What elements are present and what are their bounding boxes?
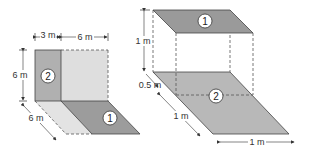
right-region-2-number: 2 — [213, 91, 219, 102]
left-height-label: 6 m — [12, 70, 27, 80]
right-region-1-number: 1 — [202, 16, 208, 27]
right-figure: 1 2 1 m 0.5 m 1 m 1 m — [134, 10, 294, 147]
right-width-label: 1 m — [249, 137, 264, 147]
left-top-width-3m: 3 m — [40, 30, 55, 40]
left-top-width-6m: 6 m — [77, 32, 92, 42]
right-height-label: 1 m — [135, 36, 150, 46]
right-region-2 — [153, 72, 289, 134]
left-figure: 2 1 3 m 6 m 6 m 6 m — [10, 30, 140, 140]
left-region-1-number: 1 — [107, 113, 113, 124]
diagram-canvas: 2 1 3 m 6 m 6 m 6 m — [0, 0, 312, 156]
left-light-rect — [61, 50, 108, 101]
left-depth-label: 6 m — [28, 113, 43, 123]
left-region-2-number: 2 — [45, 71, 51, 82]
right-offset-label: 0.5 m — [139, 80, 162, 90]
right-depth-label: 1 m — [173, 111, 188, 121]
